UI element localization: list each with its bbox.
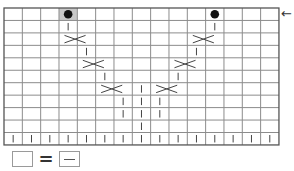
cable-cross-right-icon (83, 60, 104, 67)
legend-empty-cell (12, 151, 33, 167)
legend: = (12, 151, 80, 167)
legend-equals: = (33, 151, 59, 167)
bobble-icon (64, 10, 73, 19)
knitting-chart (0, 0, 294, 171)
purl-dash-icon (64, 159, 75, 160)
bobble-icon (210, 10, 219, 19)
cable-cross-left-icon (156, 85, 177, 92)
cable-cross-left-icon (174, 60, 195, 67)
legend-purl-cell (59, 151, 80, 167)
cable-cross-left-icon (193, 35, 214, 42)
arrow-left-icon: ← (281, 7, 292, 21)
cable-cross-right-icon (101, 85, 122, 92)
cable-cross-right-icon (64, 35, 85, 42)
